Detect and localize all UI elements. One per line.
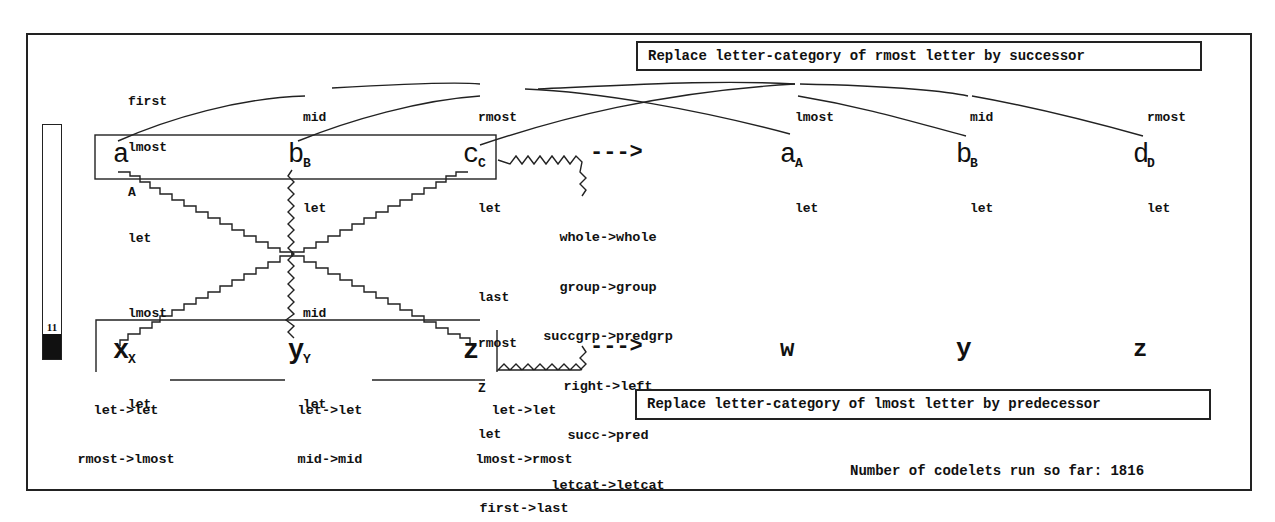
letter-initial-c[interactable]: c <box>463 142 479 169</box>
description-modified-b: mid B let <box>970 80 993 232</box>
bridge-b-y <box>286 170 294 338</box>
letter-answer-w[interactable]: w <box>780 336 794 363</box>
codelets-count-status: Number of codelets run so far: 1816 <box>850 464 1144 479</box>
correspondence-arc-1 <box>525 89 790 134</box>
letter-answer-y[interactable]: y <box>956 336 972 363</box>
letter-target-z[interactable]: z <box>463 338 479 365</box>
letter-modified-b[interactable]: b <box>956 142 972 169</box>
letter-modified-a[interactable]: a <box>780 142 796 169</box>
letter-answer-z[interactable]: z <box>1133 336 1147 363</box>
temperature-thermometer: 11 <box>42 124 62 360</box>
letter-modified-d[interactable]: d <box>1133 142 1149 169</box>
bond-mapping-x: let->let rmost->lmost <box>56 373 196 486</box>
description-initial-a: first lmost A let <box>128 64 167 261</box>
letter-initial-b[interactable]: b <box>288 142 304 169</box>
bridge-a-z <box>118 172 470 344</box>
bond-mapping-z: let->let lmost->rmost first->last <box>454 373 594 522</box>
description-initial-c: rmost C let <box>478 80 517 232</box>
description-initial-b: mid B let <box>303 80 326 232</box>
letter-target-y[interactable]: y <box>288 338 304 365</box>
arrow-target-to-answer: ---> <box>590 336 643 358</box>
description-modified-a: lmost A let <box>795 80 834 232</box>
bond-mapping-y: let->let mid->mid <box>260 373 400 486</box>
rule-initial: Replace letter-category of rmost letter … <box>636 41 1202 71</box>
description-modified-d: rmost D let <box>1147 80 1186 232</box>
temperature-fill <box>43 334 61 359</box>
temperature-value: 11 <box>43 321 61 333</box>
arrow-initial-to-modified: ---> <box>590 142 643 164</box>
letter-initial-a[interactable]: a <box>113 142 129 169</box>
rule-translated: Replace letter-category of lmost letter … <box>635 389 1211 420</box>
letter-target-x[interactable]: x <box>113 338 129 365</box>
